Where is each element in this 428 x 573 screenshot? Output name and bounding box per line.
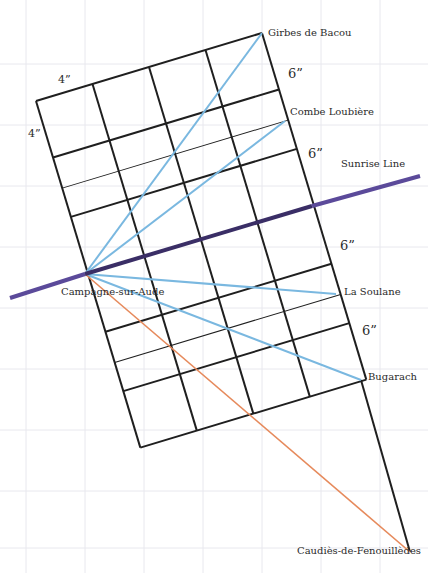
label-la-soulane: La Soulane bbox=[344, 286, 401, 297]
dimension-right-2: 6” bbox=[308, 146, 323, 161]
dimension-top-width: 4” bbox=[58, 73, 71, 86]
orange-line bbox=[85, 274, 410, 552]
dimension-right-1: 6” bbox=[288, 66, 303, 81]
extension-line bbox=[361, 380, 410, 552]
label-caudies-de-fenouilledes: Caudiès-de-Fenouillèdes bbox=[297, 545, 421, 556]
sunrise-line-right bbox=[312, 176, 420, 206]
label-sunrise-line: Sunrise Line bbox=[341, 158, 405, 169]
dimension-right-4: 6” bbox=[362, 323, 377, 338]
dimension-right-3: 6” bbox=[340, 238, 355, 253]
label-girbes-de-bacou: Girbes de Bacou bbox=[268, 27, 351, 38]
sight-lines bbox=[85, 33, 361, 380]
sunrise-line-through-grid bbox=[85, 206, 312, 274]
diagram-canvas: 4” 4” 6” 6” 6” 6” Girbes de Bacou Combe … bbox=[0, 0, 428, 573]
label-combe-loubiere: Combe Loubière bbox=[290, 106, 374, 117]
dimension-left-height: 4” bbox=[28, 127, 41, 140]
label-bugarach: Bugarach bbox=[368, 371, 417, 382]
label-campagne-sur-aude: Campagne-sur-Aude bbox=[61, 286, 164, 297]
